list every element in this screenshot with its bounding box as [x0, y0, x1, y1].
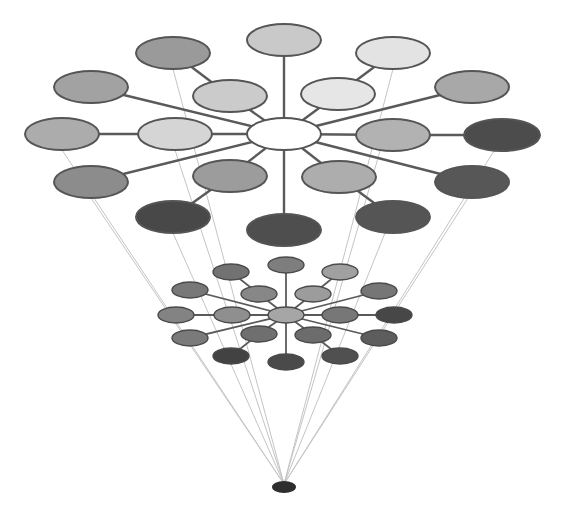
vanishing-point: [272, 481, 296, 493]
top-cluster-node: [247, 24, 321, 56]
small-cluster-node: [322, 307, 358, 323]
small-cluster-node: [376, 307, 412, 323]
top-cluster-node: [356, 119, 430, 151]
small-cluster-node: [214, 307, 250, 323]
small-cluster-node: [295, 327, 331, 343]
top-cluster-hub-node: [247, 118, 321, 150]
small-cluster-node: [172, 330, 208, 346]
hierarchy-projection-diagram: [0, 0, 562, 507]
top-cluster-node: [193, 80, 267, 112]
small-cluster-node: [241, 286, 277, 302]
small-cluster-node: [213, 348, 249, 364]
small-cluster-node: [268, 354, 304, 370]
small-cluster-node: [361, 330, 397, 346]
small-cluster-node: [158, 307, 194, 323]
vanishing-point-node: [272, 481, 296, 493]
top-cluster-node: [54, 166, 128, 198]
small-cluster-node: [322, 348, 358, 364]
top-cluster-node: [54, 71, 128, 103]
top-cluster-node: [464, 119, 540, 151]
small-cluster-node: [213, 264, 249, 280]
small-cluster-node: [268, 257, 304, 273]
top-cluster-node: [356, 37, 430, 69]
top-cluster-node: [25, 118, 99, 150]
top-cluster-node: [247, 214, 321, 246]
top-cluster-node: [193, 160, 267, 192]
small-cluster-hub-node: [268, 307, 304, 323]
top-cluster-node: [302, 161, 376, 193]
small-cluster-node: [322, 264, 358, 280]
top-cluster-node: [435, 166, 509, 198]
top-cluster-node: [356, 201, 430, 233]
small-cluster-node: [361, 283, 397, 299]
top-cluster-node: [301, 78, 375, 110]
top-cluster-node: [136, 201, 210, 233]
small-cluster-node: [172, 282, 208, 298]
top-cluster-node: [136, 37, 210, 69]
small-cluster-node: [241, 326, 277, 342]
top-cluster-node: [138, 118, 212, 150]
small-cluster-node: [295, 286, 331, 302]
top-cluster-node: [435, 71, 509, 103]
